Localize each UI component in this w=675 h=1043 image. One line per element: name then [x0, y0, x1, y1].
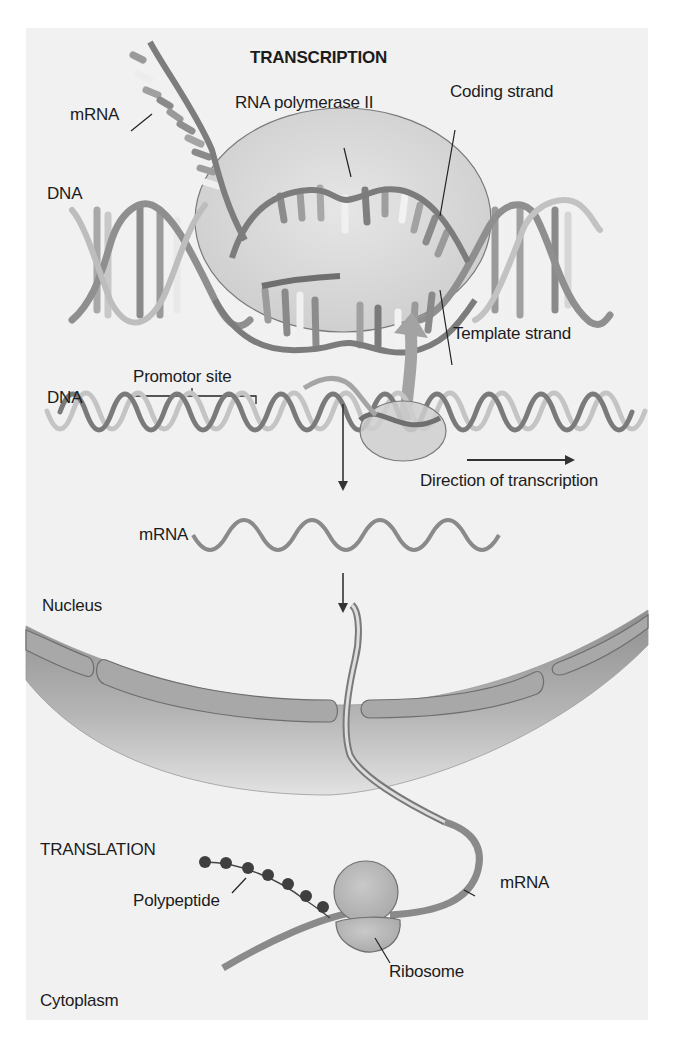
label-nucleus: Nucleus: [42, 597, 102, 614]
label-mrna-bottom: mRNA: [500, 874, 549, 891]
diagram-artwork: [0, 0, 675, 1043]
label-mrna-top: mRNA: [70, 106, 119, 123]
transcription-title: TRANSCRIPTION: [250, 49, 387, 66]
mrna-wave: [193, 520, 499, 550]
label-polypeptide: Polypeptide: [133, 892, 220, 909]
label-coding-strand: Coding strand: [450, 83, 553, 100]
dna-helix-linear: [47, 393, 645, 430]
direction-arrow: [467, 455, 575, 465]
ribosome: [334, 861, 400, 952]
label-direction-of-transcription: Direction of transcription: [420, 472, 598, 489]
label-template-strand: Template strand: [453, 325, 571, 342]
label-mrna-middle: mRNA: [139, 526, 188, 543]
label-dna-middle: DNA: [47, 389, 82, 406]
label-cytoplasm: Cytoplasm: [40, 992, 119, 1009]
polymerase-on-dna: [304, 378, 446, 461]
label-ribosome: Ribosome: [389, 963, 464, 980]
down-arrow-2: [338, 573, 348, 613]
label-dna-top: DNA: [47, 185, 82, 202]
translation-title: TRANSLATION: [40, 841, 156, 858]
nuclear-envelope: [26, 610, 648, 795]
label-rna-polymerase: RNA polymerase II: [235, 94, 373, 111]
label-promotor-site: Promotor site: [133, 368, 232, 385]
